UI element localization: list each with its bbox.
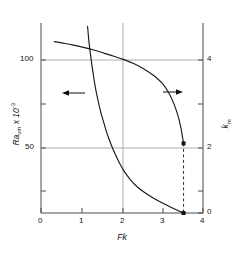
- ticks-left-axis: [41, 60, 46, 191]
- data-curves: [54, 26, 185, 215]
- right-arrow-icon: [163, 89, 183, 95]
- xtick-label-4: 4: [200, 216, 204, 225]
- ylabel-right-subscript: m: [226, 119, 232, 124]
- ytick-right-label-4: 4: [207, 54, 211, 63]
- ytick-right-label-2: 2: [207, 142, 211, 151]
- xtick-label-1: 1: [79, 216, 83, 225]
- ylabel-left-subscript: vm: [16, 127, 22, 135]
- left-arrow-icon: [62, 90, 85, 96]
- ytick-left-label-50: 50: [25, 142, 34, 151]
- ylabel-right-main: k: [220, 124, 230, 128]
- endpoint-marker-ra: [182, 211, 186, 215]
- ytick-left-label-100: 100: [20, 54, 33, 63]
- curve-ra-vm: [88, 26, 184, 213]
- xtick-label-3: 3: [160, 216, 164, 225]
- y-axis-left-title: Ravm x 10-3: [10, 84, 23, 164]
- ytick-right-label-0: 0: [207, 207, 211, 216]
- ylabel-left-tail: x 10: [11, 108, 21, 126]
- ticks-right-axis: [198, 60, 203, 213]
- annotation-arrows: [62, 89, 183, 96]
- chart-figure: 0 1 2 3 4 100 50 4 2 0 Ravm x 10-3 km Fk: [0, 0, 238, 256]
- x-axis-title: Fk: [92, 232, 152, 242]
- ylabel-left-main: Ra: [11, 135, 21, 146]
- xtick-label-2: 2: [120, 216, 124, 225]
- y-axis-right-title: km: [220, 94, 232, 154]
- ylabel-left-exponent: -3: [10, 103, 16, 108]
- endpoint-marker-km: [182, 141, 186, 145]
- xtick-label-0: 0: [38, 216, 42, 225]
